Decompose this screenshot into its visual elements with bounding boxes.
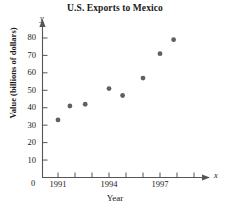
- chart-container: U.S. Exports to Mexico Value (billions o…: [0, 0, 230, 214]
- data-point: [171, 37, 176, 42]
- y-axis-variable: y: [40, 13, 44, 23]
- origin-label: 0: [31, 178, 35, 188]
- x-tick-label: 1994: [96, 179, 122, 189]
- data-point: [83, 102, 88, 107]
- y-tick-label: 50: [18, 85, 36, 95]
- data-point: [158, 51, 163, 56]
- y-tick-label: 60: [18, 67, 36, 77]
- data-point: [141, 76, 146, 81]
- x-tick-marks: [58, 173, 194, 178]
- x-axis-arrow: [202, 174, 210, 180]
- data-point: [68, 104, 73, 109]
- data-point: [56, 118, 61, 123]
- x-axis-variable: x: [214, 170, 218, 180]
- y-tick-label: 70: [18, 50, 36, 60]
- y-tick-label: 30: [18, 120, 36, 130]
- y-tick-label: 10: [18, 155, 36, 165]
- x-tick-label: 1997: [147, 179, 173, 189]
- data-point: [120, 93, 125, 98]
- x-tick-label: 1991: [45, 179, 71, 189]
- y-tick-label: 20: [18, 137, 36, 147]
- data-point: [107, 86, 112, 91]
- y-tick-label: 40: [18, 102, 36, 112]
- data-points: [56, 37, 176, 122]
- y-tick-label: 80: [18, 32, 36, 42]
- y-tick-marks: [43, 38, 48, 160]
- axes: [39, 19, 210, 181]
